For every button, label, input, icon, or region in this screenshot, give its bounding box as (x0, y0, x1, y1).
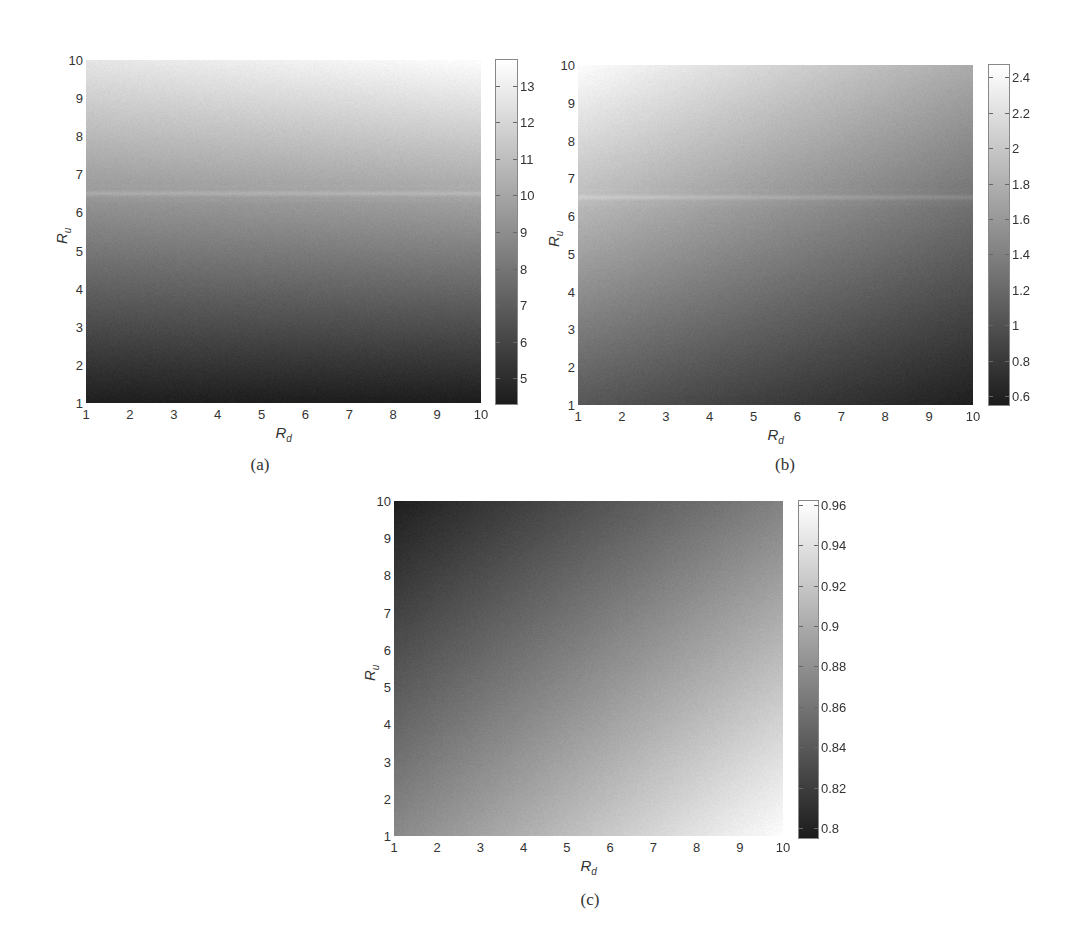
colorbar-tick-mark (513, 122, 517, 123)
y-axis-label-sub: u (554, 231, 565, 237)
y-tick-label: 2 (76, 358, 83, 371)
x-tick-label: 1 (390, 841, 397, 854)
colorbar-tick-mark (799, 505, 803, 506)
colorbar-tick-label: 0.6 (1012, 390, 1030, 403)
colorbar-tick-mark (496, 269, 500, 270)
colorbar-tick-mark (799, 788, 803, 789)
colorbar-tick-mark (799, 586, 803, 587)
colorbar-tick-mark (814, 545, 818, 546)
colorbar-tick-label: 9 (520, 226, 527, 239)
x-axis-label-sub: d (591, 866, 597, 877)
x-axis-label-main: R (768, 426, 779, 443)
y-axis-label-main: R (545, 236, 562, 247)
colorbar-tick-mark (513, 159, 517, 160)
colorbar-tick-mark (513, 195, 517, 196)
colorbar-tick-label: 6 (520, 335, 527, 348)
y-tick-label: 1 (384, 830, 391, 843)
colorbar-tick-mark (989, 254, 993, 255)
colorbar-tick-mark (799, 707, 803, 708)
x-axis-label-main: R (276, 424, 287, 441)
colorbar-tick-mark (513, 378, 517, 379)
y-tick-label: 4 (384, 718, 391, 731)
colorbar-tick-mark (1005, 77, 1009, 78)
colorbar-tick-mark (814, 505, 818, 506)
colorbar-tick-label: 0.86 (821, 700, 846, 713)
x-axis-label-sub: d (778, 435, 784, 446)
colorbar-tick-mark (496, 86, 500, 87)
x-tick-label: 3 (477, 841, 484, 854)
colorbar-tick-mark (1005, 219, 1009, 220)
colorbar-tick-mark (496, 378, 500, 379)
colorbar-tick-mark (1005, 396, 1009, 397)
colorbar-tick-label: 0.94 (821, 539, 846, 552)
y-tick-label: 9 (568, 96, 575, 109)
y-tick-label: 9 (384, 532, 391, 545)
heatmap-canvas (578, 65, 973, 405)
heatmap-canvas (394, 501, 783, 836)
x-tick-label: 5 (563, 841, 570, 854)
y-tick-label: 4 (568, 285, 575, 298)
colorbar-tick-label: 2.2 (1012, 106, 1030, 119)
y-tick-label: 6 (384, 643, 391, 656)
y-tick-label: 8 (384, 569, 391, 582)
colorbar-tick-mark (989, 77, 993, 78)
colorbar-tick-label: 5 (520, 372, 527, 385)
x-tick-label: 8 (882, 410, 889, 423)
colorbar-tick-mark (513, 232, 517, 233)
colorbar-tick-mark (513, 342, 517, 343)
colorbar-tick-mark (799, 747, 803, 748)
x-tick-label: 1 (574, 410, 581, 423)
y-tick-label: 7 (76, 168, 83, 181)
colorbar-tick-label: 0.92 (821, 579, 846, 592)
colorbar-tick-mark (1005, 254, 1009, 255)
colorbar-tick-label: 2.4 (1012, 71, 1030, 84)
y-tick-label: 10 (69, 54, 83, 67)
x-axis-label-sub: d (286, 433, 292, 444)
colorbar-tick-mark (989, 396, 993, 397)
colorbar-tick-mark (496, 305, 500, 306)
colorbar-tick-mark (814, 707, 818, 708)
colorbar-tick-mark (496, 195, 500, 196)
y-tick-label: 10 (377, 495, 391, 508)
colorbar-tick-mark (989, 361, 993, 362)
colorbar-tick-mark (513, 86, 517, 87)
x-tick-label: 2 (126, 408, 133, 421)
figure-caption: (a) (251, 455, 270, 475)
colorbar-tick-mark (989, 113, 993, 114)
x-tick-label: 4 (214, 408, 221, 421)
y-tick-label: 3 (76, 320, 83, 333)
colorbar-tick-mark (1005, 290, 1009, 291)
x-tick-label: 4 (706, 410, 713, 423)
colorbar-tick-mark (1005, 113, 1009, 114)
colorbar-tick-label: 0.8 (821, 821, 839, 834)
x-tick-label: 4 (520, 841, 527, 854)
y-tick-label: 1 (568, 399, 575, 412)
colorbar-tick-label: 1.8 (1012, 177, 1030, 190)
x-tick-label: 8 (693, 841, 700, 854)
y-axis-label: Ru (54, 227, 73, 243)
colorbar-tick-mark (1005, 148, 1009, 149)
y-tick-label: 7 (568, 172, 575, 185)
colorbar-tick-label: 10 (520, 189, 534, 202)
x-tick-label: 2 (434, 841, 441, 854)
x-tick-label: 8 (390, 408, 397, 421)
x-axis-label-main: R (581, 857, 592, 874)
x-tick-label: 9 (925, 410, 932, 423)
colorbar-tick-mark (814, 828, 818, 829)
y-tick-label: 7 (384, 606, 391, 619)
colorbar-tick-mark (814, 586, 818, 587)
y-tick-label: 2 (384, 792, 391, 805)
x-tick-label: 9 (433, 408, 440, 421)
colorbar-tick-label: 12 (520, 116, 534, 129)
y-tick-label: 4 (76, 282, 83, 295)
colorbar-tick-mark (496, 122, 500, 123)
x-tick-label: 10 (776, 841, 790, 854)
colorbar-tick-mark (989, 325, 993, 326)
y-axis-label-sub: u (370, 664, 381, 670)
x-tick-label: 9 (736, 841, 743, 854)
colorbar-tick-label: 13 (520, 79, 534, 92)
colorbar-tick-label: 11 (520, 152, 534, 165)
colorbar-tick-mark (1005, 325, 1009, 326)
y-axis-label: Ru (546, 231, 565, 247)
figure-caption: (c) (581, 890, 600, 910)
